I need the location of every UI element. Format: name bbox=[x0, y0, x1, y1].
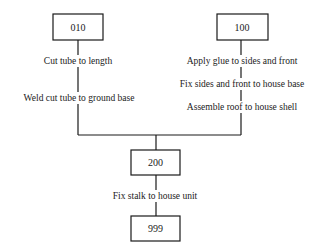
node-999-label: 999 bbox=[148, 223, 163, 234]
step-fix-sides: Fix sides and front to house base bbox=[180, 79, 305, 89]
step-apply-glue: Apply glue to sides and front bbox=[187, 56, 298, 66]
node-100-label: 100 bbox=[235, 22, 250, 33]
node-010-label: 010 bbox=[71, 22, 86, 33]
node-010: 010 bbox=[53, 14, 103, 40]
step-weld-tube: Weld cut tube to ground base bbox=[24, 93, 135, 103]
node-999: 999 bbox=[131, 216, 180, 241]
process-diagram: 010 100 200 999 Cut tube to length Weld … bbox=[0, 0, 321, 252]
node-100: 100 bbox=[217, 14, 268, 40]
step-fix-stalk: Fix stalk to house unit bbox=[113, 191, 198, 201]
step-assemble-roof: Assemble roof to house shell bbox=[187, 102, 298, 112]
node-200-label: 200 bbox=[148, 157, 163, 168]
step-cut-tube: Cut tube to length bbox=[44, 56, 113, 66]
node-200: 200 bbox=[131, 150, 180, 175]
